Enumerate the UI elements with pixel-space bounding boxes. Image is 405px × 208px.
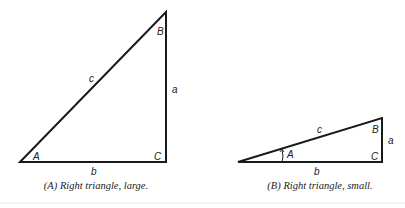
small-vertex-a-label: A <box>286 149 294 160</box>
small-side-b-label: b <box>314 166 320 177</box>
small-triangle-shape <box>238 118 382 162</box>
angle-a-arc-icon <box>282 150 283 162</box>
large-side-c-label: c <box>89 73 94 84</box>
large-side-b-label: b <box>91 166 97 177</box>
large-vertex-b-label: B <box>157 26 164 37</box>
caption-small: (B) Right triangle, small. <box>267 180 372 192</box>
caption-large: (A) Right triangle, large. <box>44 180 148 192</box>
small-vertex-b-label: B <box>372 124 379 135</box>
large-right-triangle: A B C a b c <box>20 12 178 177</box>
small-side-c-label: c <box>317 124 322 135</box>
large-side-a-label: a <box>172 84 178 95</box>
large-vertex-a-label: A <box>32 151 40 162</box>
small-vertex-c-label: C <box>371 151 379 162</box>
large-triangle-shape <box>20 12 166 162</box>
small-right-triangle: A B C a b c <box>238 118 394 177</box>
large-vertex-c-label: C <box>154 151 162 162</box>
small-side-a-label: a <box>388 135 394 146</box>
diagram-canvas: A B C a b c A B C a b c (A) Right triang… <box>0 0 405 208</box>
